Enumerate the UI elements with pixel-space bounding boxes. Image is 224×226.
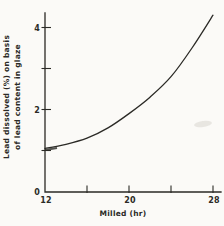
x-tick-label: 20 [124, 196, 136, 205]
data-curve [45, 15, 213, 148]
x-tick-label: 12 [40, 196, 52, 205]
chart-figure: 024122028Milled (hr)Lead dissolved (%) o… [0, 0, 224, 226]
y-axis-tick-labels: 024 [34, 24, 40, 197]
x-axis-tick-labels: 122028 [40, 196, 220, 205]
y-axis-title: Lead dissolved (%) on basisof lead conte… [2, 35, 22, 160]
x-axis-title: Milled (hr) [100, 209, 147, 218]
x-tick-label: 28 [208, 196, 220, 205]
y-tick-label: 2 [34, 106, 40, 115]
y-axis-ticks [42, 28, 52, 151]
line-chart: 024122028Milled (hr)Lead dissolved (%) o… [0, 0, 224, 226]
y-axis-title-line1: Lead dissolved (%) on basis [2, 35, 11, 160]
y-tick-label: 4 [34, 24, 40, 33]
axes [45, 13, 221, 192]
y-axis-title-line2: of lead content in glaze [13, 44, 22, 150]
paper-smudge [194, 120, 213, 128]
